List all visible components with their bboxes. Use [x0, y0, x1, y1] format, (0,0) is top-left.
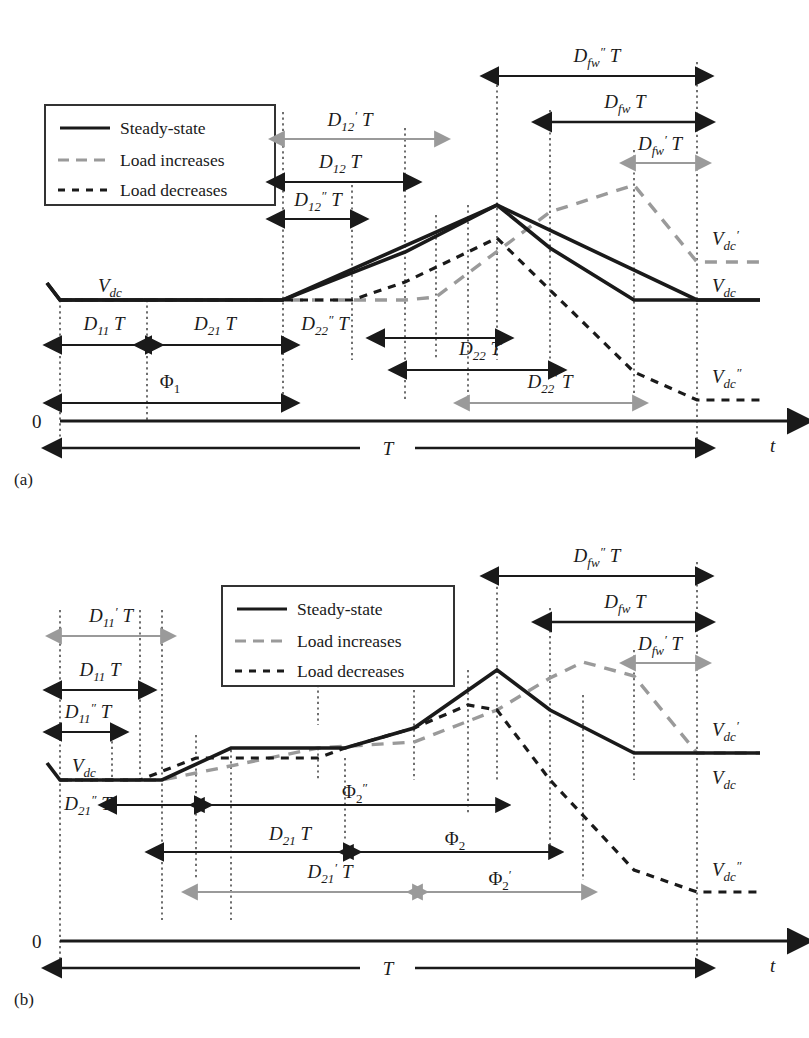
panel-b: Steady-state Load increases Load decreas…	[0, 480, 809, 1038]
interval-d12-prime-label: D12′ T	[327, 108, 374, 134]
interval-d11-prime-b: D11′ T	[60, 604, 162, 636]
interval-d22-prime-label: D22′ T	[527, 370, 574, 396]
interval-d21-label-b: D21 T	[268, 823, 312, 848]
interval-d22-dprime-label: D22″ T	[300, 312, 350, 338]
interval-phi2-dprime-label-b: Φ2″	[342, 780, 368, 806]
panel-a: Steady-state Load increases Load decreas…	[0, 0, 809, 520]
legend-label-steady: Steady-state	[120, 118, 206, 138]
voltage-label-vdc-prime-right-b: Vdc′	[712, 718, 739, 744]
interval-phi1-label: Φ1	[160, 371, 180, 396]
interval-d12-dprime-label: D12″ T	[293, 188, 343, 214]
interval-dfw-dprime-label-b: Dfw″ T	[573, 544, 622, 570]
interval-dfw-prime-label: Dfw′ T	[637, 132, 684, 158]
interval-d11-b: D11 T	[60, 659, 140, 690]
interval-d11-label-b: D11 T	[78, 659, 122, 684]
waveform-steady-state	[47, 205, 760, 300]
voltage-label-vdc-left: Vdc	[98, 275, 122, 300]
voltage-label-vdc-dprime-right: Vdc″	[712, 365, 742, 391]
interval-dfw-prime-b: Dfw′ T	[634, 632, 697, 663]
voltage-label-vdc-left-b: Vdc	[72, 755, 96, 780]
interval-dfw-dprime: Dfw″ T	[497, 44, 697, 76]
panel-b-figure: Steady-state Load increases Load decreas…	[0, 480, 809, 1038]
interval-d21-prime-b: D21′ T Φ2′	[196, 860, 583, 893]
interval-d21-dprime-label-b: D21″ T	[63, 792, 113, 818]
period-label-a: T	[383, 438, 395, 459]
panel-a-figure: Steady-state Load increases Load decreas…	[0, 0, 809, 520]
interval-d11: D11 T	[60, 313, 147, 345]
interval-d22: D22 T	[405, 338, 550, 370]
interval-period-a: T	[60, 438, 697, 459]
voltage-label-vdc-right: Vdc	[712, 275, 736, 300]
interval-phi2-prime-label-b: Φ2′	[488, 867, 511, 893]
interval-d12-dprime: D12″ T	[283, 188, 352, 219]
interval-d12-prime: D12′ T	[283, 108, 436, 139]
interval-d22-label: D22 T	[458, 338, 502, 363]
interval-d21-label: D21 T	[193, 313, 237, 338]
interval-dfw: Dfw T	[550, 91, 697, 122]
panel-b-caption: (b)	[14, 990, 34, 1010]
interval-period-b: T	[60, 958, 697, 979]
legend-label-decrease: Load decreases	[120, 180, 228, 200]
legend-a: Steady-state Load increases Load decreas…	[45, 105, 275, 205]
interval-dfw-label-b: Dfw T	[603, 591, 647, 616]
interval-d11-dprime-label-b: D11″ T	[64, 700, 113, 726]
interval-dfw-prime: Dfw′ T	[634, 132, 697, 163]
interval-phi1: Φ1	[60, 371, 283, 403]
axis-zero-label-b: 0	[32, 931, 42, 952]
axis-t-label-a: t	[770, 435, 776, 456]
legend-label-increase-b: Load increases	[297, 631, 402, 651]
period-label-b: T	[383, 958, 395, 979]
voltage-label-vdc-prime-right: Vdc′	[712, 227, 739, 253]
axis-zero-label-a: 0	[32, 411, 42, 432]
interval-d21-dprime-b: D21″ T Φ2″	[63, 780, 497, 818]
interval-d12-label: D12 T	[318, 151, 362, 176]
interval-d11-label: D11 T	[82, 313, 126, 338]
interval-dfw-b: Dfw T	[550, 591, 697, 622]
interval-d12: D12 T	[283, 151, 405, 182]
interval-d22-prime: D22′ T	[468, 370, 634, 403]
interval-d21-b: D21 T Φ2	[162, 823, 550, 853]
interval-d21: D21 T	[150, 313, 283, 345]
voltage-label-vdc-right-b: Vdc	[712, 767, 736, 792]
interval-dfw-dprime-label: Dfw″ T	[573, 44, 622, 70]
interval-phi2-label-b: Φ2	[445, 828, 465, 853]
waveform-load-decreases-b	[60, 705, 760, 892]
interval-dfw-prime-label-b: Dfw′ T	[637, 632, 684, 658]
interval-d11-prime-label-b: D11′ T	[88, 604, 134, 630]
legend-label-decrease-b: Load decreases	[297, 661, 405, 681]
legend-label-steady-b: Steady-state	[297, 599, 383, 619]
legend-b: Steady-state Load increases Load decreas…	[222, 586, 454, 686]
axis-t-label-b: t	[770, 955, 776, 976]
legend-label-increase: Load increases	[120, 150, 225, 170]
voltage-label-vdc-dprime-right-b: Vdc″	[712, 858, 742, 884]
interval-dfw-label: Dfw T	[603, 91, 647, 116]
interval-d11-dprime-b: D11″ T	[60, 700, 113, 732]
interval-d21-prime-label-b: D21′ T	[307, 860, 354, 886]
interval-dfw-dprime-b: Dfw″ T	[497, 544, 697, 576]
